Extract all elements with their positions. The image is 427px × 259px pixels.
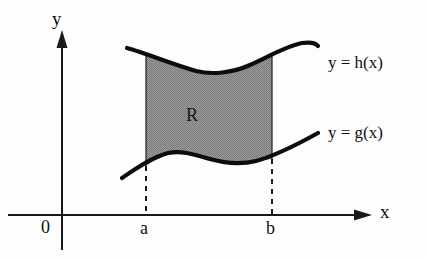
shaded-region [146,53,272,166]
tick-label-a: a [140,219,148,237]
upper-curve-label: y = h(x) [328,54,383,71]
lower-curve-label: y = g(x) [328,124,383,141]
drop-lines [146,159,272,214]
origin-label: 0 [41,218,50,236]
y-axis [57,30,68,250]
x-axis-label: x [380,202,390,221]
region-label: R [186,106,198,124]
tick-label-b: b [266,219,275,237]
y-axis-label: y [52,9,62,28]
figure-canvas: y x 0 a b R y = h(x) y = g(x) [0,0,427,259]
